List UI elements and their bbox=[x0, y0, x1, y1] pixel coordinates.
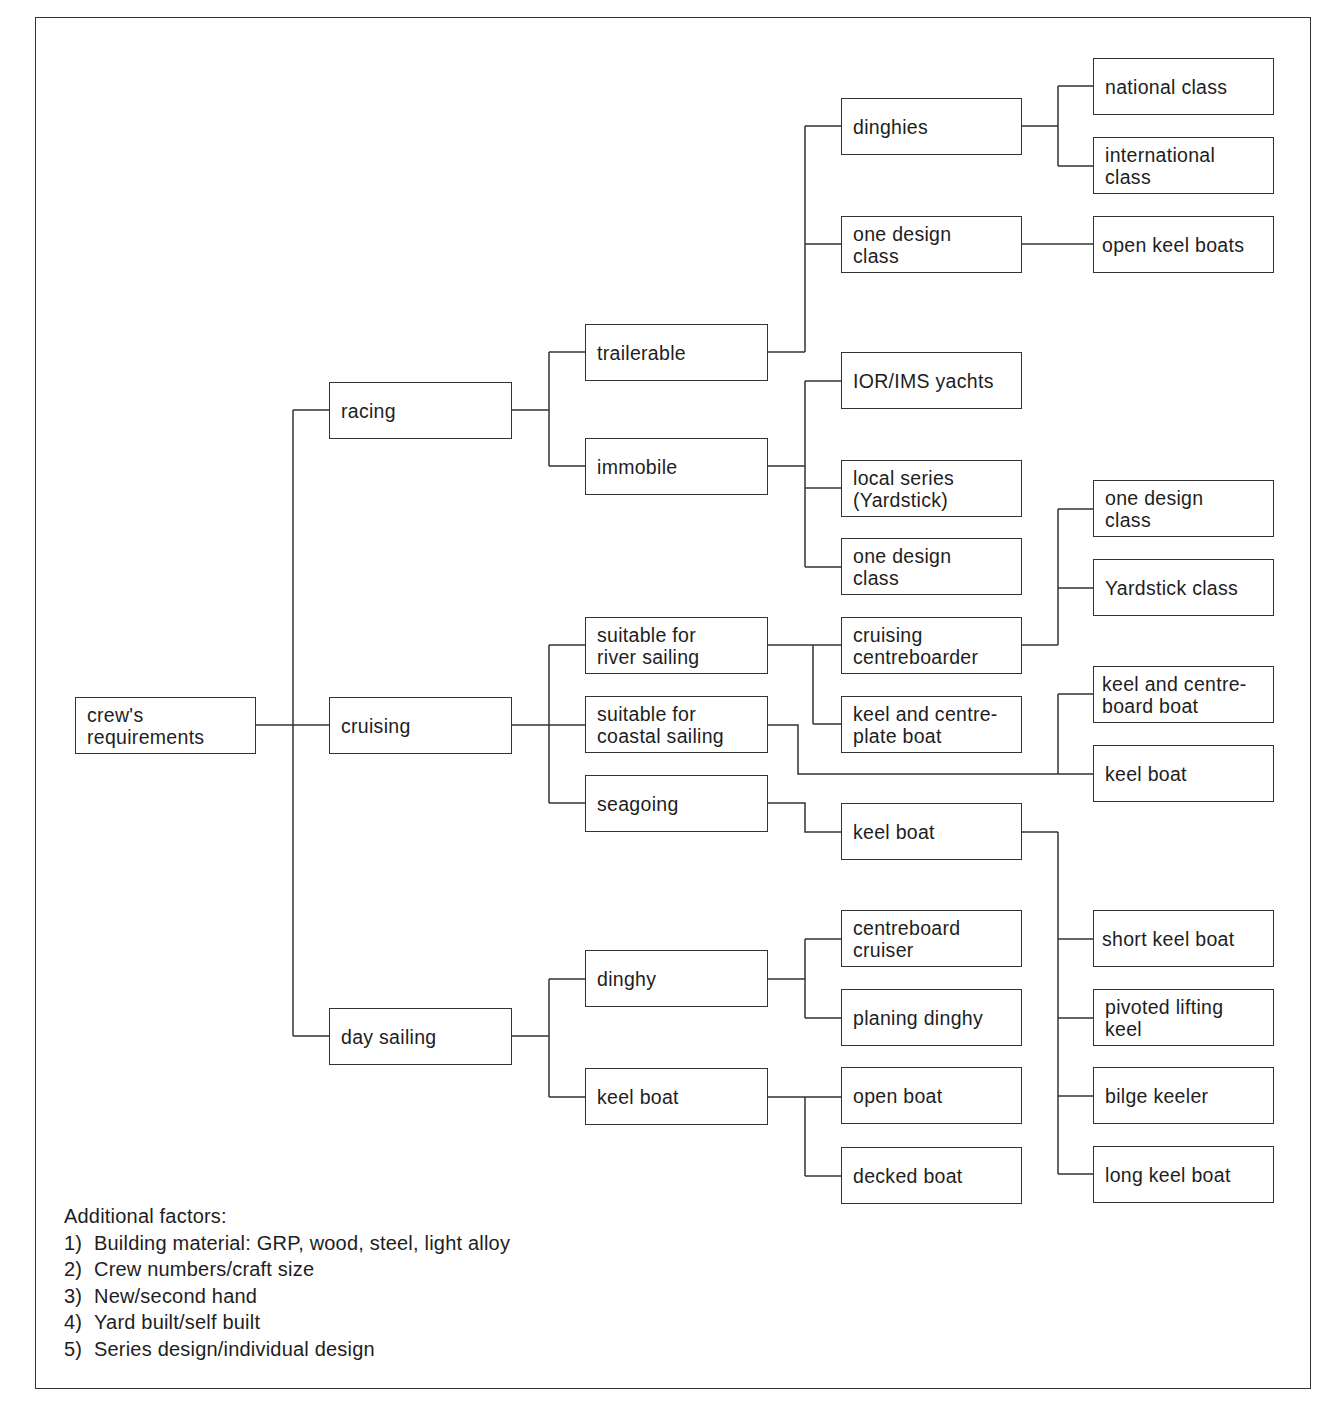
factor-item: 4)Yard built/self built bbox=[64, 1309, 510, 1336]
node-planing-dinghy: planing dinghy bbox=[841, 989, 1022, 1046]
node-open-keel-boats: open keel boats bbox=[1093, 216, 1274, 273]
factor-item: 1)Building material: GRP, wood, steel, l… bbox=[64, 1230, 510, 1257]
node-trailerable: trailerable bbox=[585, 324, 768, 381]
node-international-class: international class bbox=[1093, 137, 1274, 194]
factor-number: 2) bbox=[64, 1256, 94, 1283]
node-local-series: local series (Yardstick) bbox=[841, 460, 1022, 517]
node-immobile: immobile bbox=[585, 438, 768, 495]
node-bilge-keeler: bilge keeler bbox=[1093, 1067, 1274, 1124]
factor-number: 3) bbox=[64, 1283, 94, 1310]
node-cruising-centreboarder: cruising centreboarder bbox=[841, 617, 1022, 674]
node-centreboard-cruiser: centreboard cruiser bbox=[841, 910, 1022, 967]
node-day-sailing: day sailing bbox=[329, 1008, 512, 1065]
factor-item: 3)New/second hand bbox=[64, 1283, 510, 1310]
node-yardstick-class: Yardstick class bbox=[1093, 559, 1274, 616]
node-keel-centreboard-boat: keel and centre- board boat bbox=[1093, 666, 1274, 723]
node-keel-boat-seagoing: keel boat bbox=[841, 803, 1022, 860]
node-one-design-class: one design class bbox=[841, 216, 1022, 273]
factor-text: Yard built/self built bbox=[94, 1309, 260, 1336]
factor-text: Building material: GRP, wood, steel, lig… bbox=[94, 1230, 510, 1257]
node-ior-ims-yachts: IOR/IMS yachts bbox=[841, 352, 1022, 409]
additional-factors-title: Additional factors: bbox=[64, 1203, 510, 1230]
node-racing: racing bbox=[329, 382, 512, 439]
factor-item: 2)Crew numbers/craft size bbox=[64, 1256, 510, 1283]
node-seagoing: seagoing bbox=[585, 775, 768, 832]
node-short-keel-boat: short keel boat bbox=[1093, 910, 1274, 967]
factor-number: 5) bbox=[64, 1336, 94, 1363]
node-one-design-class-cruising: one design class bbox=[1093, 480, 1274, 537]
node-keel-boat-day: keel boat bbox=[585, 1068, 768, 1125]
factor-text: New/second hand bbox=[94, 1283, 257, 1310]
node-one-design-class-immobile: one design class bbox=[841, 538, 1022, 595]
node-coastal-sailing: suitable for coastal sailing bbox=[585, 696, 768, 753]
factor-number: 4) bbox=[64, 1309, 94, 1336]
node-pivoted-lifting-keel: pivoted lifting keel bbox=[1093, 989, 1274, 1046]
node-crews-requirements: crew's requirements bbox=[75, 697, 256, 754]
factor-number: 1) bbox=[64, 1230, 94, 1257]
node-cruising: cruising bbox=[329, 697, 512, 754]
additional-factors: Additional factors: 1)Building material:… bbox=[64, 1203, 510, 1362]
node-long-keel-boat: long keel boat bbox=[1093, 1146, 1274, 1203]
node-decked-boat: decked boat bbox=[841, 1147, 1022, 1204]
node-river-sailing: suitable for river sailing bbox=[585, 617, 768, 674]
node-keel-boat-coastal: keel boat bbox=[1093, 745, 1274, 802]
node-national-class: national class bbox=[1093, 58, 1274, 115]
node-open-boat: open boat bbox=[841, 1067, 1022, 1124]
node-keel-centreplate-boat: keel and centre- plate boat bbox=[841, 696, 1022, 753]
node-dinghies: dinghies bbox=[841, 98, 1022, 155]
factor-item: 5)Series design/individual design bbox=[64, 1336, 510, 1363]
factor-text: Series design/individual design bbox=[94, 1336, 375, 1363]
node-dinghy: dinghy bbox=[585, 950, 768, 1007]
factor-text: Crew numbers/craft size bbox=[94, 1256, 314, 1283]
